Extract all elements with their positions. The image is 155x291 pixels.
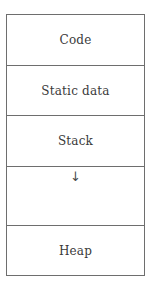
segment-stack: Stack <box>7 116 144 167</box>
memory-layout-diagram: Code Static data Stack ↓ Heap <box>6 14 145 276</box>
segment-heap: Heap <box>7 226 144 275</box>
segment-free-space: ↓ <box>7 167 144 226</box>
segment-stack-label: Stack <box>58 134 93 148</box>
segment-static-data-label: Static data <box>41 84 109 98</box>
segment-static-data: Static data <box>7 66 144 116</box>
segment-code-label: Code <box>60 33 92 47</box>
segment-code: Code <box>7 15 144 66</box>
segment-heap-label: Heap <box>59 244 92 258</box>
arrow-down-icon: ↓ <box>70 170 81 183</box>
